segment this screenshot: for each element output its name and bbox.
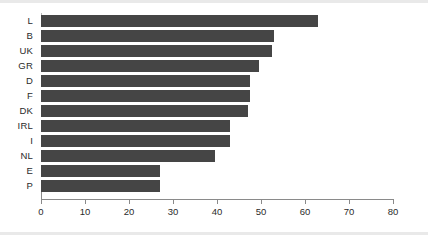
plot-area: LBUKGRDFDKIRLINLEP 01020304050607080 (0, 3, 428, 235)
bar (41, 180, 160, 192)
bar-category-label: L (0, 14, 33, 28)
x-tick-label: 60 (290, 206, 320, 217)
bar (41, 105, 248, 117)
x-tick-mark (393, 199, 394, 204)
bar (41, 150, 215, 162)
x-tick-mark (41, 199, 42, 204)
bar (41, 45, 272, 57)
x-tick-label: 0 (26, 206, 56, 217)
x-tick-mark (85, 199, 86, 204)
bar-row: E (0, 164, 428, 178)
x-tick-label: 80 (378, 206, 408, 217)
x-tick-label: 50 (246, 206, 276, 217)
bar (41, 30, 274, 42)
bar-row: F (0, 89, 428, 103)
x-tick-mark (305, 199, 306, 204)
bar-row: DK (0, 104, 428, 118)
bar-category-label: GR (0, 59, 33, 73)
x-tick-mark (349, 199, 350, 204)
x-tick-label: 20 (114, 206, 144, 217)
x-tick-label: 70 (334, 206, 364, 217)
x-tick-mark (173, 199, 174, 204)
bar-category-label: I (0, 134, 33, 148)
bar-row: B (0, 29, 428, 43)
bar (41, 75, 250, 87)
bar-row: IRL (0, 119, 428, 133)
bar-row: P (0, 179, 428, 193)
bar-row: GR (0, 59, 428, 73)
bar-row: L (0, 14, 428, 28)
bar-category-label: B (0, 29, 33, 43)
bar (41, 120, 230, 132)
bar-row: UK (0, 44, 428, 58)
bar (41, 165, 160, 177)
x-tick-mark (129, 199, 130, 204)
bar-category-label: UK (0, 44, 33, 58)
x-tick-label: 10 (70, 206, 100, 217)
bar (41, 60, 259, 72)
bar-category-label: F (0, 89, 33, 103)
bar-category-label: D (0, 74, 33, 88)
bar (41, 90, 250, 102)
bar-row: D (0, 74, 428, 88)
bar (41, 15, 318, 27)
bar-chart: LBUKGRDFDKIRLINLEP 01020304050607080 (0, 0, 428, 235)
bar-row: I (0, 134, 428, 148)
bar-category-label: E (0, 164, 33, 178)
x-tick-label: 40 (202, 206, 232, 217)
bar-category-label: P (0, 179, 33, 193)
x-tick-mark (261, 199, 262, 204)
bar (41, 135, 230, 147)
bar-row: NL (0, 149, 428, 163)
bar-category-label: IRL (0, 119, 33, 133)
bar-category-label: DK (0, 104, 33, 118)
bar-category-label: NL (0, 149, 33, 163)
x-tick-mark (217, 199, 218, 204)
x-tick-label: 30 (158, 206, 188, 217)
